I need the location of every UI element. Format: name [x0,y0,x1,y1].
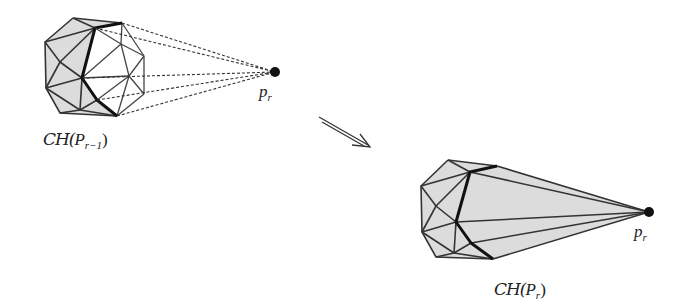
point-label-var: p [259,82,268,101]
caption-prefix: CH( [494,279,525,299]
left-polytope [45,18,144,116]
left-point-pr [270,67,280,77]
right-polytope [421,160,649,259]
point-label-sub: r [268,91,272,103]
caption-suffix: ) [540,280,546,299]
implies-arrow-icon [319,117,370,147]
left-caption: CH(Pr−1) [43,129,108,151]
right-caption: CH(Pr) [494,279,546,301]
caption-var: P [74,130,84,149]
tangent-dashed-lines [82,23,275,116]
caption-sub: r−1 [85,139,102,151]
caption-var: P [525,280,535,299]
caption-suffix: ) [102,130,108,149]
left-point-label: pr [259,82,272,103]
point-label-sub: r [643,231,647,243]
caption-prefix: CH( [43,129,74,149]
point-label-var: p [634,222,643,241]
figure-canvas [0,0,689,305]
right-point-pr [644,207,654,217]
right-point-label: pr [634,222,647,243]
